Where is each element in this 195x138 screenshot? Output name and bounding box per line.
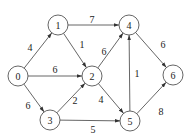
node-label: 0 — [16, 71, 21, 82]
edge-3-to-2 — [57, 83, 85, 113]
node-1: 1 — [48, 15, 68, 35]
nodes-layer: 0123456 — [8, 15, 183, 131]
edge-weight-0-1: 4 — [28, 42, 33, 53]
node-2: 2 — [82, 66, 102, 86]
node-label: 2 — [90, 71, 95, 82]
weighted-directed-graph: 466716425168 0123456 — [0, 0, 195, 138]
node-4: 4 — [119, 15, 139, 35]
edge-weight-5-6: 8 — [159, 106, 164, 117]
edge-weight-2-5: 4 — [99, 94, 104, 105]
node-label: 6 — [171, 70, 176, 81]
node-0: 0 — [8, 66, 28, 86]
node-3: 3 — [40, 110, 60, 130]
edge-weight-0-2: 6 — [53, 64, 58, 75]
node-label: 3 — [48, 115, 53, 126]
edge-weight-1-4: 7 — [90, 14, 95, 25]
edge-weight-5-4: 1 — [135, 68, 140, 79]
edge-5-to-4 — [129, 35, 130, 111]
edge-weight-0-3: 6 — [26, 100, 31, 111]
node-label: 1 — [56, 20, 61, 31]
node-5: 5 — [120, 111, 140, 131]
edge-weight-3-2: 2 — [73, 95, 78, 106]
node-label: 5 — [128, 116, 133, 127]
edge-3-to-5 — [60, 120, 120, 121]
edge-weight-4-6: 6 — [161, 39, 166, 50]
edge-weight-1-2: 1 — [80, 39, 85, 50]
node-6: 6 — [163, 65, 183, 85]
node-label: 4 — [127, 20, 132, 31]
edge-weight-2-4: 6 — [102, 46, 107, 57]
edge-weight-3-5: 5 — [91, 124, 96, 135]
